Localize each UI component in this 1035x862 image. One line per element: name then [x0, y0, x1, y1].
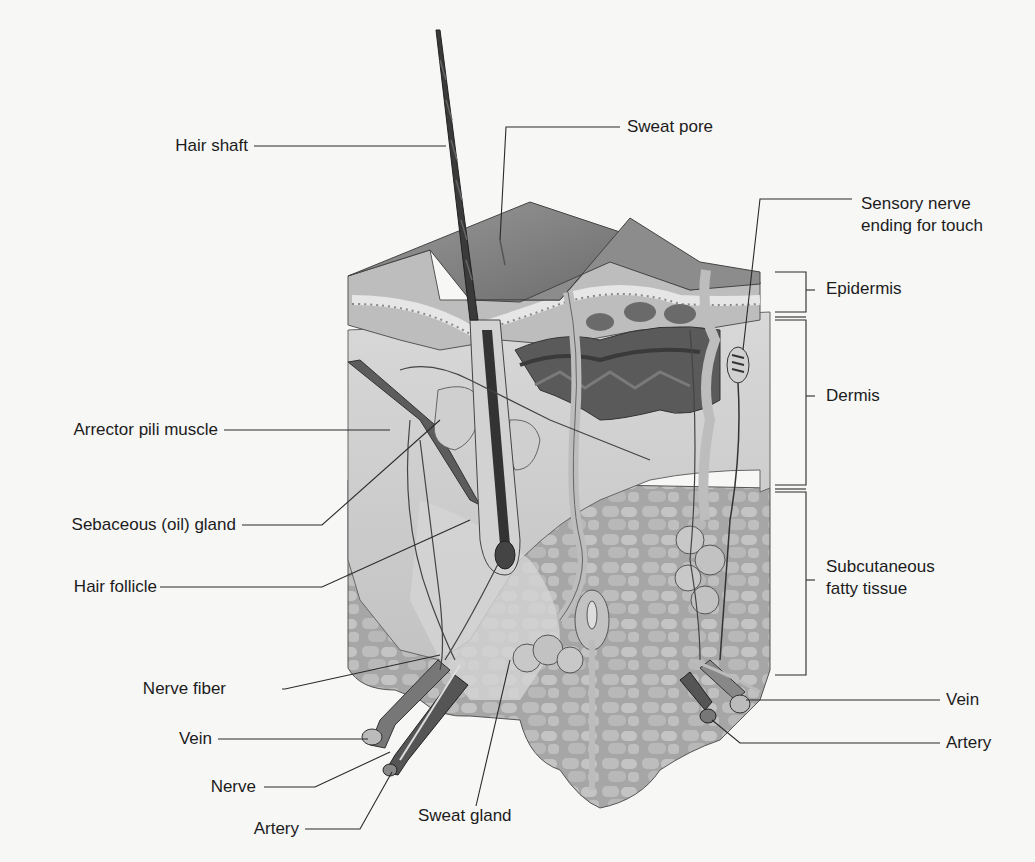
- label-hair-follicle: Hair follicle: [74, 577, 157, 597]
- label-line: Subcutaneous: [826, 556, 935, 578]
- label-sebaceous-gland: Sebaceous (oil) gland: [72, 515, 236, 535]
- label-arrector-pili-muscle: Arrector pili muscle: [73, 420, 218, 440]
- label-vein-right: Vein: [946, 690, 979, 710]
- label-dermis: Dermis: [826, 386, 880, 406]
- label-artery-left: Artery: [254, 819, 299, 839]
- label-nerve: Nerve: [211, 777, 256, 797]
- label-subcutaneous-fatty-tissue: Subcutaneous fatty tissue: [826, 556, 935, 600]
- label-line: fatty tissue: [826, 578, 935, 600]
- label-nerve-fiber: Nerve fiber: [143, 679, 226, 699]
- skin-diagram: Hair shaft Arrector pili muscle Sebaceou…: [0, 0, 1035, 862]
- label-artery-right: Artery: [946, 733, 991, 753]
- label-sweat-gland: Sweat gland: [418, 806, 512, 826]
- label-hair-shaft: Hair shaft: [175, 136, 248, 156]
- label-line: Sensory nerve: [861, 193, 983, 215]
- label-epidermis: Epidermis: [826, 279, 902, 299]
- label-sweat-pore: Sweat pore: [627, 117, 713, 137]
- label-vein-left: Vein: [179, 729, 212, 749]
- label-line: ending for touch: [861, 215, 983, 237]
- label-sensory-nerve-ending: Sensory nerve ending for touch: [861, 193, 983, 237]
